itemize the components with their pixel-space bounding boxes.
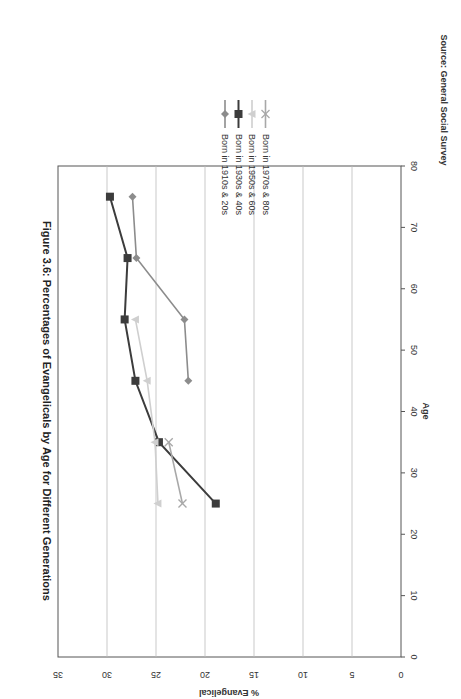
x-tick-label: 80 (409, 161, 419, 171)
y-tick-label: 10 (298, 670, 308, 680)
x-tick-label: 50 (409, 345, 419, 355)
legend-marker (221, 110, 229, 118)
y-tick-label: 30 (102, 670, 112, 680)
data-point (131, 377, 139, 385)
data-point (212, 500, 220, 508)
x-axis-label: Age (421, 402, 431, 419)
legend-label: Born in 1910s & 20s (220, 134, 230, 216)
y-tick-label: 25 (151, 670, 161, 680)
y-axis-label: % Evangelical (199, 688, 259, 698)
data-point (124, 254, 132, 262)
y-tick-label: 5 (349, 670, 354, 680)
y-tick-label: 35 (53, 670, 63, 680)
y-tick-label: 0 (398, 670, 403, 680)
x-tick-label: 40 (409, 406, 419, 416)
x-tick-label: 0 (409, 654, 419, 659)
legend-label: Born in 1950s & 60s (247, 134, 257, 216)
legend-label: Born in 1970s & 80s (261, 134, 271, 216)
x-tick-label: 10 (409, 591, 419, 601)
data-point (106, 193, 114, 201)
legend-label: Born in 1930s & 40s (234, 134, 244, 216)
y-tick-label: 20 (200, 670, 210, 680)
x-tick-label: 60 (409, 284, 419, 294)
x-tick-label: 30 (409, 468, 419, 478)
data-point (121, 315, 129, 323)
source-note: Source: General Social Survey (439, 34, 449, 165)
evangelicals-chart: 0510152025303501020304050607080 Figure 3… (0, 0, 461, 699)
chart-title: Figure 3.6: Percentages of Evangelicals … (41, 221, 53, 601)
plot-area (58, 166, 401, 657)
x-tick-label: 20 (409, 529, 419, 539)
legend-marker (235, 110, 243, 118)
x-tick-label: 70 (409, 222, 419, 232)
y-tick-label: 15 (249, 670, 259, 680)
